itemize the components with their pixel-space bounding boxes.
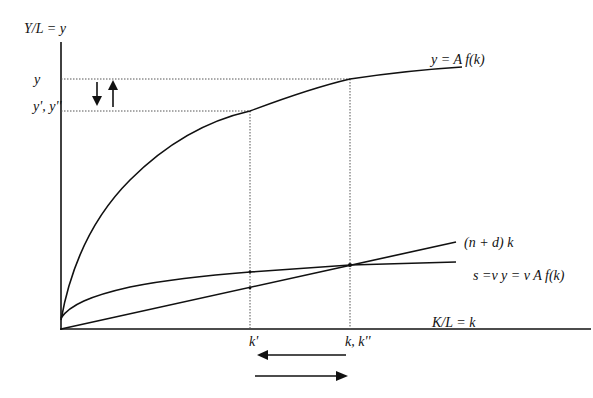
k-high-tick-label: k, k'' — [345, 335, 370, 349]
solow-diagram: Y/L = y K/L = k y = A f(k) (n + d) k s =… — [0, 0, 593, 398]
diagram-canvas — [0, 0, 593, 398]
depreciation-line-label: (n + d) k — [464, 236, 514, 250]
production-curve — [61, 67, 462, 320]
up-arrow-icon — [108, 80, 118, 107]
k-low-tick-label: k' — [249, 335, 258, 349]
y-axis-label: Y/L = y — [24, 22, 66, 36]
right-arrow-icon — [255, 371, 348, 381]
left-arrow-icon — [257, 350, 346, 360]
y-low-tick-label: y', y'' — [33, 100, 61, 114]
depreciation-line — [61, 242, 456, 329]
production-curve-label: y = A f(k) — [431, 53, 485, 67]
x-axis-label: K/L = k — [432, 316, 475, 330]
k-low-depreciation-point — [249, 287, 252, 290]
saving-curve-label: s =v y = v A f(k) — [473, 269, 564, 283]
saving-curve — [61, 262, 456, 318]
k-low-saving-point — [249, 271, 252, 274]
down-arrow-icon — [92, 82, 102, 106]
y-high-tick-label: y — [34, 73, 40, 87]
steady-state-point — [348, 263, 352, 267]
